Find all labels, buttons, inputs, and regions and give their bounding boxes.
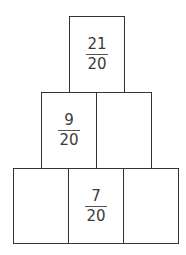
fraction: 9 20: [58, 112, 80, 149]
pyramid-cell-middle-right-empty[interactable]: [96, 92, 152, 169]
fraction: 21 20: [86, 36, 108, 73]
pyramid-cell-bottom-right-empty[interactable]: [123, 168, 179, 244]
pyramid-cell-middle-left: 9 20: [41, 92, 97, 169]
denominator: 20: [86, 208, 105, 225]
numerator: 9: [64, 112, 74, 129]
denominator: 20: [87, 56, 106, 73]
numerator: 21: [87, 36, 106, 53]
fraction: 7 20: [85, 188, 107, 225]
denominator: 20: [59, 132, 78, 149]
numerator: 7: [91, 188, 101, 205]
pyramid-cell-bottom-middle: 7 20: [68, 168, 124, 244]
pyramid-cell-top: 21 20: [69, 16, 125, 93]
pyramid-cell-bottom-left-empty[interactable]: [13, 168, 69, 244]
